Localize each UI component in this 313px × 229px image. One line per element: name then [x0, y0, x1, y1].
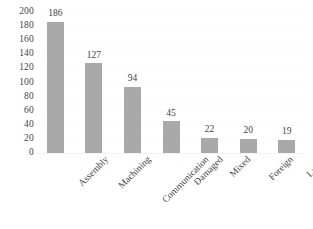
bar[interactable] [47, 22, 64, 153]
x-axis-tick-label: Assembly [77, 155, 111, 189]
bar-group[interactable]: 45 [163, 12, 180, 153]
x-axis-tick-label: Labels [305, 155, 313, 180]
y-axis-tick-label: 80 [0, 92, 34, 102]
y-axis-tick-label: 100 [0, 78, 34, 88]
y-axis-tick-label: 40 [0, 120, 34, 130]
y-axis-tick-label: 20 [0, 134, 34, 144]
y-axis-tick-label: 200 [0, 7, 34, 17]
bar-chart: 200180160140120100806040200 186127944522… [0, 0, 313, 229]
bar-group[interactable]: 94 [124, 12, 141, 153]
bar-group[interactable]: 22 [201, 12, 218, 153]
x-axis-tick-label-text: Assembly [77, 155, 111, 189]
x-axis-tick-label: Mixed [228, 155, 252, 179]
bar-group[interactable]: 127 [85, 12, 102, 153]
bar[interactable] [240, 139, 257, 153]
y-axis-tick-label: 160 [0, 35, 34, 45]
x-axis-tick-label-text: Mixed [228, 155, 252, 179]
bar[interactable] [278, 140, 295, 153]
bar[interactable] [124, 87, 141, 153]
x-axis-tick-label-text: Labels [305, 155, 313, 180]
x-axis-tick-label: Foreign [268, 155, 296, 183]
bar-value-label: 19 [282, 127, 292, 137]
y-axis-tick-label: 180 [0, 21, 34, 31]
x-axis-tick-label-text: Machining [117, 155, 153, 191]
y-axis-tick-label: 120 [0, 63, 34, 73]
bar-value-label: 186 [48, 9, 62, 19]
x-axis: AssemblyMachiningCommunicationDamagedMix… [36, 155, 313, 229]
bar-value-label: 20 [243, 126, 253, 136]
bar[interactable] [201, 138, 218, 154]
gridline [36, 153, 306, 154]
y-axis: 200180160140120100806040200 [0, 0, 34, 165]
bar-value-label: 127 [87, 51, 101, 61]
plot-area: 1861279445222019 [36, 12, 306, 153]
y-axis-tick-label: 0 [0, 148, 34, 158]
bar-value-label: 22 [205, 125, 215, 135]
x-axis-tick-label: Machining [117, 155, 153, 191]
x-axis-tick-label-text: Foreign [268, 155, 296, 183]
y-axis-tick-label: 140 [0, 49, 34, 59]
bar-group[interactable]: 186 [47, 12, 64, 153]
bar-value-label: 94 [128, 74, 138, 84]
y-axis-tick-label: 60 [0, 106, 34, 116]
bar-group[interactable]: 20 [240, 12, 257, 153]
bar[interactable] [163, 121, 180, 153]
bar-group[interactable]: 19 [278, 12, 295, 153]
bar-value-label: 45 [166, 109, 176, 119]
bar[interactable] [85, 63, 102, 153]
